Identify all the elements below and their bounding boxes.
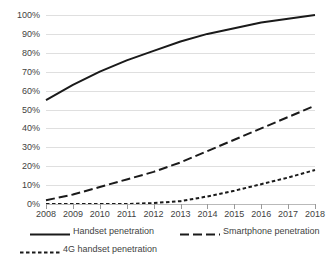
y-axis-tick-label: 0% <box>27 200 40 209</box>
y-axis-tick-label: 100% <box>17 11 40 20</box>
y-axis-tick-label: 50% <box>22 105 40 114</box>
legend-item[interactable]: Smartphone penetration <box>180 224 320 239</box>
y-axis-tick-label: 10% <box>22 181 40 190</box>
legend-label: Smartphone penetration <box>223 226 320 237</box>
series-layer <box>46 15 315 204</box>
legend-swatch-icon <box>20 244 60 255</box>
plot-wrapper: 100%90%80%70%60%50%40%30%20%10%0% 200820… <box>0 0 331 215</box>
y-axis: 100%90%80%70%60%50%40%30%20%10%0% <box>0 0 44 215</box>
line-chart: 100%90%80%70%60%50%40%30%20%10%0% 200820… <box>0 0 331 269</box>
y-axis-tick-label: 80% <box>22 48 40 57</box>
series-line-1 <box>46 106 315 201</box>
x-axis-tick-label: 2008 <box>36 209 56 219</box>
plot-area <box>46 15 315 204</box>
x-axis-tick-label: 2016 <box>251 209 271 219</box>
legend-item[interactable]: 4G handset penetration <box>20 242 157 257</box>
y-axis-tick-label: 60% <box>22 86 40 95</box>
legend-label: Handset penetration <box>73 226 154 237</box>
x-axis-tick-label: 2015 <box>224 209 244 219</box>
series-line-0 <box>46 15 315 100</box>
y-axis-tick-label: 30% <box>22 143 40 152</box>
x-axis-tick-label: 2014 <box>197 209 217 219</box>
y-axis-tick-label: 40% <box>22 124 40 133</box>
x-axis-tick-label: 2017 <box>278 209 298 219</box>
y-axis-tick-label: 90% <box>22 29 40 38</box>
y-axis-tick-label: 70% <box>22 67 40 76</box>
x-axis-tick-label: 2013 <box>170 209 190 219</box>
x-axis-tick-label: 2011 <box>117 209 136 219</box>
legend-item[interactable]: Handset penetration <box>30 224 154 239</box>
x-axis: 2008200920102011201220132014201520162017… <box>0 209 331 223</box>
x-axis-tick-label: 2010 <box>90 209 110 219</box>
y-axis-tick-label: 20% <box>22 162 40 171</box>
legend-label: 4G handset penetration <box>63 244 157 255</box>
legend-row: 4G handset penetration <box>0 242 331 257</box>
legend: Handset penetrationSmartphone penetratio… <box>0 224 331 269</box>
x-axis-tick-label: 2012 <box>144 209 164 219</box>
series-line-2 <box>46 170 315 204</box>
x-axis-tick-label: 2018 <box>305 209 325 219</box>
legend-swatch-icon <box>30 226 70 237</box>
legend-swatch-icon <box>180 226 220 237</box>
x-axis-tick-label: 2009 <box>63 209 83 219</box>
legend-row: Handset penetrationSmartphone penetratio… <box>0 224 331 239</box>
